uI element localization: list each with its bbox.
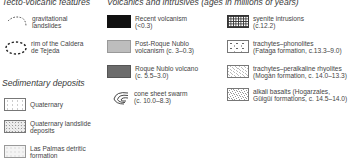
legend-item-post-roque-nublo: Post-Roque Nublo volcanism (c. 3–0.3) xyxy=(107,40,194,55)
label-line: (<0.3) xyxy=(135,22,187,29)
label-line: Quaternary xyxy=(30,101,63,108)
legend-item-alkali-basalts: alkali basalts (Hogarzales, Güigüí forma… xyxy=(227,88,347,103)
label-line: (Mogán formation, c. 14.0–13.3) xyxy=(253,72,347,79)
las-palmas-swatch xyxy=(4,145,26,158)
sedimentary-header: Sedimentary deposits xyxy=(2,78,85,88)
legend-item-quaternary-landslide: Quaternary landslide deposits xyxy=(4,120,91,135)
legend-item-quaternary: Quaternary xyxy=(4,98,63,111)
legend-item-gravitational-landslides: gravitational landslides xyxy=(6,15,68,31)
mogan-swatch xyxy=(227,65,249,78)
post-roque-nublo-swatch xyxy=(107,40,131,53)
label-line: (c.12.2) xyxy=(253,22,304,29)
label-line: (Fataga formation, c.13.3–9.0) xyxy=(253,47,342,54)
tecto-volcanic-header: Tecto-volcanic features xyxy=(2,0,90,7)
legend-item-fataga: trachytes–phonolites (Fataga formation, … xyxy=(227,40,342,55)
cone-sheet-arcs-icon xyxy=(110,90,132,106)
recent-volcanism-swatch xyxy=(107,15,131,28)
legend-item-mogan: trachytes–peralkaline rhyolites (Mogán f… xyxy=(227,65,347,80)
syenite-swatch xyxy=(227,15,249,28)
legend-item-cone-sheet-swarm: cone sheet swarm (c. 10.0–8.3) xyxy=(110,90,188,106)
label-line: (c. 5.5–3.0) xyxy=(135,72,198,79)
quaternary-landslide-swatch xyxy=(4,120,26,133)
label-line: rim of the Caldera xyxy=(31,40,83,47)
label-line: gravitational xyxy=(32,15,68,22)
legend-item-caldera-rim: rim of the Caldera de Tejeda xyxy=(3,40,83,56)
label-line: Post-Roque Nublo xyxy=(135,40,194,47)
legend-item-roque-nublo: Roque Nublo volcano (c. 5.5–3.0) xyxy=(107,65,198,80)
label-line: Las Palmas detritic xyxy=(30,145,86,152)
legend-item-syenite: syenite intrusions (c.12.2) xyxy=(227,15,304,30)
dashed-ellipse-icon xyxy=(3,40,29,56)
label-line: cone sheet swarm xyxy=(134,90,188,97)
label-line: de Tejeda xyxy=(31,47,83,54)
quaternary-swatch xyxy=(4,98,26,111)
label-line: volcanism (c. 3–0.3) xyxy=(135,47,194,54)
label-line: Quaternary landslide xyxy=(30,120,91,127)
label-line: deposits xyxy=(30,127,91,134)
label-line: (c. 10.0–8.3) xyxy=(134,97,188,104)
label-line: Recent volcanism xyxy=(135,15,187,22)
label-line: trachytes–phonolites xyxy=(253,40,342,47)
legend-item-las-palmas: Las Palmas detritic formation xyxy=(4,145,86,160)
label-line: Güigüí formations, c. 14.5–14.0) xyxy=(253,95,347,102)
alkali-basalts-swatch xyxy=(227,88,249,101)
label-line: syenite intrusions xyxy=(253,15,304,22)
label-line: alkali basalts (Hogarzales, xyxy=(253,88,347,95)
volcanics-header: Volcanics and intrusives (ages in millio… xyxy=(107,0,299,7)
legend-item-recent-volcanism: Recent volcanism (<0.3) xyxy=(107,15,187,30)
dashed-arc-icon xyxy=(6,15,28,31)
label-line: formation xyxy=(30,152,86,159)
fataga-swatch xyxy=(227,40,249,53)
label-line: Roque Nublo volcano xyxy=(135,65,198,72)
label-line: landslides xyxy=(32,22,68,29)
roque-nublo-swatch xyxy=(107,65,131,78)
label-line: trachytes–peralkaline rhyolites xyxy=(253,65,347,72)
